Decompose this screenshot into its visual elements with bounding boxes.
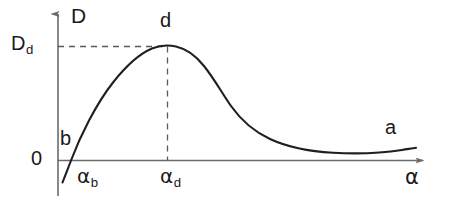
origin-label: 0	[31, 148, 42, 168]
data-curve	[63, 46, 417, 183]
y-tick-label-dd: Dd	[11, 33, 33, 53]
damping-curve-figure: D α Dd 0 αb αd b d a	[0, 0, 449, 203]
y-axis-label: D	[71, 5, 86, 26]
annotation-point-a: a	[385, 117, 396, 137]
annotation-point-b: b	[60, 128, 71, 148]
x-tick-label-alpha-d-subscript: d	[173, 175, 181, 190]
plot-canvas	[0, 0, 449, 203]
x-tick-label-alpha-d: αd	[160, 166, 181, 186]
y-tick-label-dd-base: D	[11, 32, 25, 54]
x-tick-label-alpha-b-base: α	[77, 164, 90, 188]
x-axis-label: α	[405, 166, 419, 188]
x-tick-label-alpha-b-subscript: b	[90, 175, 98, 190]
x-tick-label-alpha-d-base: α	[160, 164, 173, 188]
x-axis-label-glyph: α	[405, 165, 419, 189]
x-tick-label-alpha-b: αb	[77, 166, 98, 186]
y-tick-label-dd-subscript: d	[25, 42, 33, 57]
annotation-point-d: d	[160, 10, 171, 30]
